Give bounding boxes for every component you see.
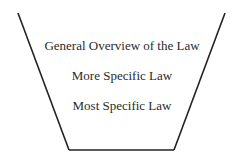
- funnel-left-edge: [18, 13, 69, 150]
- level-label-most-specific: Most Specific Law: [73, 98, 173, 113]
- level-label-more-specific: More Specific Law: [72, 68, 173, 83]
- funnel-right-edge: [174, 13, 225, 150]
- funnel-diagram: General Overview of the Law More Specifi…: [0, 0, 232, 161]
- level-label-general: General Overview of the Law: [44, 38, 200, 53]
